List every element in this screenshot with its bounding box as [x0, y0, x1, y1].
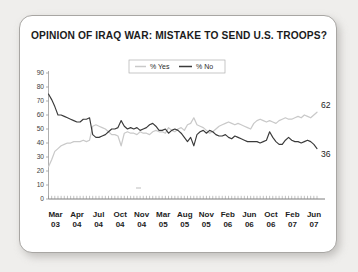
- x-axis-tick-year: 04: [73, 220, 82, 229]
- x-axis-tick-month: Jun: [242, 210, 256, 219]
- x-axis-tick-month: Jul: [93, 210, 105, 219]
- x-axis-tick-year: 05: [180, 220, 189, 229]
- chart-plot-area: 0102030405060708090 Mar03Apr04Jul04Oct04…: [20, 16, 337, 253]
- y-axis-tick-label: 90: [37, 69, 45, 76]
- end-label-yes: 62: [321, 100, 331, 110]
- series-end-labels: 6236: [321, 100, 331, 158]
- x-axis-tick-year: 04: [116, 220, 125, 229]
- y-axis-tick-label: 70: [37, 97, 45, 104]
- x-axis-tick-month: Nov: [199, 210, 215, 219]
- series-lines: [49, 94, 318, 167]
- y-axis-tick-label: 20: [37, 167, 45, 174]
- screenshot-root: OPINION OF IRAQ WAR: MISTAKE TO SEND U.S…: [0, 0, 358, 272]
- x-axis-tick-month: Jun: [307, 210, 321, 219]
- x-axis-tick-month: Mar: [48, 210, 62, 219]
- x-axis-tick-month: Feb: [285, 210, 299, 219]
- legend-label-no: % No: [196, 63, 213, 70]
- x-axis-tick-year: 06: [266, 220, 275, 229]
- x-axis-tick-month: Mar: [156, 210, 170, 219]
- x-axis-tick-year: 04: [94, 220, 103, 229]
- y-axis-tick-label: 60: [37, 111, 45, 118]
- y-axis-tick-label: 40: [37, 139, 45, 146]
- y-axis-tick-label: 30: [37, 153, 45, 160]
- x-axis-tick-month: Apr: [70, 210, 84, 219]
- x-axis: Mar03Apr04Jul04Oct04Nov04Mar05Aug05Nov05…: [48, 188, 325, 229]
- x-axis-tick-year: 07: [310, 220, 319, 229]
- end-label-no: 36: [321, 149, 331, 159]
- legend-label-yes: % Yes: [150, 63, 170, 70]
- chart-card: OPINION OF IRAQ WAR: MISTAKE TO SEND U.S…: [19, 15, 337, 253]
- x-axis-tick-month: Oct: [113, 210, 127, 219]
- x-axis-tick-month: Oct: [264, 210, 278, 219]
- x-axis-tick-year: 03: [51, 220, 60, 229]
- x-axis-tick-month: Nov: [134, 210, 150, 219]
- y-axis-tick-label: 10: [37, 181, 45, 188]
- x-axis-tick-year: 05: [202, 220, 211, 229]
- chart-legend: % Yes% No: [129, 60, 225, 73]
- y-axis-tick-label: 80: [37, 83, 45, 90]
- line-chart-svg: 0102030405060708090 Mar03Apr04Jul04Oct04…: [20, 16, 337, 253]
- y-axis: 0102030405060708090: [37, 69, 49, 202]
- series-line-yes: [49, 112, 318, 167]
- x-axis-tick-month: Aug: [177, 210, 193, 219]
- y-axis-tick-label: 50: [37, 125, 45, 132]
- y-axis-tick-label: 0: [40, 195, 44, 202]
- x-axis-tick-year: 06: [223, 220, 232, 229]
- x-axis-tick-year: 04: [137, 220, 146, 229]
- x-axis-tick-year: 07: [288, 220, 297, 229]
- x-axis-tick-month: Feb: [221, 210, 235, 219]
- x-axis-tick-year: 05: [159, 220, 168, 229]
- x-axis-tick-year: 06: [245, 220, 254, 229]
